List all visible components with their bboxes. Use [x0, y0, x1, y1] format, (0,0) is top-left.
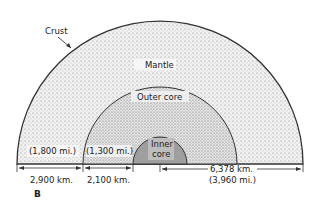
inner-core-label: Inner	[151, 139, 174, 149]
outer-core-label: Outer core	[137, 92, 182, 102]
crust-label: Crust	[45, 26, 68, 36]
outer-core-thickness-km: 2,100 km.	[87, 175, 130, 185]
mantle-thickness-km: 2,900 km.	[30, 175, 73, 185]
figure-label: B	[34, 189, 41, 199]
earth-radius-km: 6,378 km.	[210, 164, 253, 174]
inner-core-label-2: core	[152, 149, 170, 159]
outer-core-thickness-mi: (1,300 mi.)	[86, 146, 133, 156]
earth-radius-mi: (3,960 mi.)	[209, 175, 256, 185]
earth-layers-diagram: Crust Mantle Outer core Inner core (1,80…	[0, 0, 319, 207]
mantle-label: Mantle	[145, 60, 174, 70]
mantle-thickness-mi: (1,800 mi.)	[29, 146, 76, 156]
